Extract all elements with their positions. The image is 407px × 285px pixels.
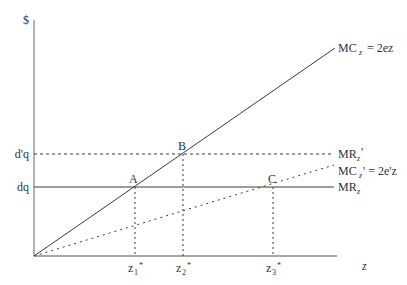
mr-z-prime-label: MR z ' [338, 145, 363, 163]
svg-text:z: z [128, 261, 133, 275]
mc-z-prime-label: MC z ' = 2e'z [338, 164, 397, 180]
x-axis-label: z [361, 259, 367, 273]
y-tick-dq: dq [17, 180, 29, 194]
svg-text:MC: MC [338, 41, 357, 55]
svg-text:z: z [358, 48, 363, 57]
point-a-label: A [129, 172, 138, 186]
svg-text:MR: MR [338, 147, 357, 161]
mr-z-label: MR z [338, 180, 361, 196]
svg-text:z: z [176, 261, 181, 275]
economics-diagram: $ z d'q dq A B C z 1 * z 2 * z 3 * MC z … [0, 0, 407, 285]
svg-text:*: * [139, 261, 143, 270]
svg-text:*: * [187, 261, 191, 270]
svg-text:1: 1 [134, 268, 138, 277]
svg-text:2: 2 [182, 268, 186, 277]
mc-z-label: MC z = 2ez [338, 41, 393, 57]
y-tick-dprime-q: d'q [15, 147, 29, 161]
x-tick-z1: z 1 * [128, 261, 143, 277]
x-tick-z3: z 3 * [266, 261, 281, 277]
svg-text:3: 3 [272, 268, 276, 277]
point-b-label: B [178, 139, 186, 153]
svg-text:': ' [361, 145, 363, 159]
x-tick-z2: z 2 * [176, 261, 191, 277]
svg-text:*: * [277, 261, 281, 270]
mc-z-prime-line [34, 165, 334, 256]
svg-text:MC: MC [338, 164, 357, 178]
svg-text:MR: MR [338, 180, 357, 194]
svg-text:z: z [266, 261, 271, 275]
svg-text:' = 2e'z: ' = 2e'z [363, 164, 397, 178]
y-axis-label: $ [23, 13, 29, 27]
point-c-label: C [268, 172, 276, 186]
svg-text:z: z [356, 187, 361, 196]
svg-text:= 2ez: = 2ez [364, 41, 393, 55]
